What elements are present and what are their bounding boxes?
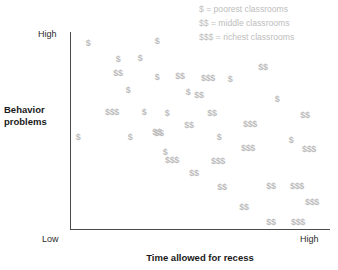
data-point-2: $$: [258, 62, 267, 72]
data-point-1: $: [76, 132, 81, 142]
data-point-1: $: [86, 38, 91, 48]
scatter-plot-figure: Behavior problems Time allowed for reces…: [0, 0, 338, 270]
data-point-1: $: [142, 107, 147, 117]
data-point-1: $: [289, 135, 294, 145]
data-point-2: $$: [113, 68, 122, 78]
data-point-3: $$$: [201, 73, 215, 83]
data-point-1: $: [128, 132, 133, 142]
data-point-2: $$: [184, 120, 193, 130]
data-point-3: $$$: [243, 119, 257, 129]
data-point-2: $$: [266, 181, 275, 191]
data-point-1: $: [186, 87, 191, 97]
data-point-2: $$: [300, 110, 309, 120]
data-point-3: $$$: [291, 217, 305, 227]
data-point-1: $: [228, 74, 233, 84]
data-point-1: $: [275, 94, 280, 104]
data-point-3: $$$: [290, 181, 304, 191]
data-point-1: $: [165, 108, 170, 118]
data-point-3: $$$: [165, 155, 179, 165]
data-point-2: $$: [152, 127, 161, 137]
data-point-1: $: [138, 53, 143, 63]
data-point-1: $: [116, 54, 121, 64]
data-point-2: $$: [194, 90, 203, 100]
data-point-3: $$$: [241, 143, 255, 153]
data-point-2: $$: [217, 182, 226, 192]
data-point-1: $: [155, 36, 160, 46]
data-point-1: $: [217, 132, 222, 142]
data-point-2: $$: [189, 168, 198, 178]
data-point-1: $: [155, 72, 160, 82]
data-point-3: $$$: [305, 197, 319, 207]
data-point-3: $$$: [105, 107, 119, 117]
data-point-1: $: [126, 85, 131, 95]
data-point-2: $$: [175, 71, 184, 81]
data-point-2: $$: [266, 217, 275, 227]
data-point-3: $$$: [211, 156, 225, 166]
plot-area: $$$$$$$$$$$$$$$$$$$$$$$$$$$$$$$$$$$$$$$$…: [0, 0, 338, 270]
data-point-2: $$: [207, 108, 216, 118]
data-point-3: $$$: [302, 144, 316, 154]
data-point-2: $$: [239, 202, 248, 212]
